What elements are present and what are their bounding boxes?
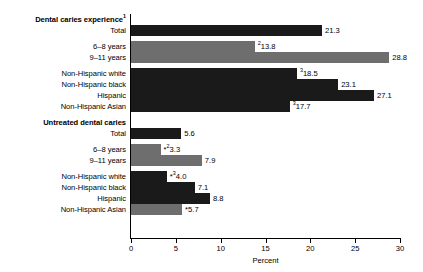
chart-bar-row: Non-Hispanic black7.1 <box>0 182 423 193</box>
bar <box>131 101 290 112</box>
x-axis-tick-label: 30 <box>388 244 412 253</box>
bar <box>131 193 210 204</box>
x-axis-tick <box>400 239 401 243</box>
x-axis-tick-label: 25 <box>343 244 367 253</box>
x-axis-tick-label: 20 <box>298 244 322 253</box>
chart-bar-row: Non-Hispanic white318.5 <box>0 68 423 79</box>
bar-value-label: 318.5 <box>300 68 318 79</box>
footnote-marker: 3 <box>300 67 303 73</box>
x-axis-tick-label: 15 <box>254 244 278 253</box>
bar-value-label: *34.0 <box>170 171 187 182</box>
category-label: Hispanic <box>0 90 126 101</box>
x-axis-tick <box>221 239 222 243</box>
category-label: 6–8 years <box>0 41 126 52</box>
x-axis-tick <box>131 239 132 243</box>
bar-value-label: 21.3 <box>325 25 340 36</box>
category-label: 9–11 years <box>0 155 126 166</box>
section-header-label: Untreated dental caries <box>0 117 126 128</box>
chart-bar-row: Non-Hispanic Asian*5.7 <box>0 204 423 215</box>
category-label: Total <box>0 25 126 36</box>
chart-bar-row: 6–8 years213.8 <box>0 41 423 52</box>
bar <box>131 41 255 52</box>
chart-bar-row: Total5.6 <box>0 128 423 139</box>
bar-value-label: 7.9 <box>205 155 216 166</box>
bar <box>131 128 181 139</box>
bar-value-label: *23.3 <box>164 144 181 155</box>
bar-value-label: 5.6 <box>184 128 195 139</box>
category-label: Non-Hispanic Asian <box>0 204 126 215</box>
chart-bar-row: 6–8 years*23.3 <box>0 144 423 155</box>
x-axis-tick-label: 10 <box>209 244 233 253</box>
category-label: 6–8 years <box>0 144 126 155</box>
x-axis-tick <box>176 239 177 243</box>
x-axis-title: Percent <box>131 256 400 265</box>
category-label: Non-Hispanic black <box>0 79 126 90</box>
bar <box>131 204 182 215</box>
footnote-marker: 2 <box>167 143 170 149</box>
category-label: Hispanic <box>0 193 126 204</box>
x-axis-tick <box>310 239 311 243</box>
category-label: 9–11 years <box>0 52 126 63</box>
chart-bar-row: Non-Hispanic Asian317.7 <box>0 101 423 112</box>
chart-bar-row: 9–11 years28.8 <box>0 52 423 63</box>
category-label: Non-Hispanic white <box>0 171 126 182</box>
bar <box>131 182 195 193</box>
bar-chart-figure: Dental caries experience1Total21.36–8 ye… <box>0 0 423 272</box>
bar <box>131 25 322 36</box>
x-axis-tick-label: 0 <box>119 244 143 253</box>
bar-value-label: 23.1 <box>341 79 356 90</box>
x-axis-tick-label: 5 <box>164 244 188 253</box>
bar-value-label: 213.8 <box>258 41 276 52</box>
bar-value-label: 317.7 <box>293 101 311 112</box>
footnote-marker: 1 <box>123 13 126 19</box>
bar-value-label: 7.1 <box>198 182 209 193</box>
x-axis-tick <box>355 239 356 243</box>
bar <box>131 171 167 182</box>
chart-bar-row: Hispanic27.1 <box>0 90 423 101</box>
chart-section-header-row: Dental caries experience1 <box>0 14 423 25</box>
category-label: Non-Hispanic black <box>0 182 126 193</box>
bar-value-label: *5.7 <box>185 204 199 215</box>
category-label: Non-Hispanic Asian <box>0 101 126 112</box>
chart-bar-row: 9–11 years7.9 <box>0 155 423 166</box>
x-axis-tick <box>266 239 267 243</box>
bar <box>131 90 374 101</box>
category-label: Non-Hispanic white <box>0 68 126 79</box>
bar <box>131 155 202 166</box>
bar <box>131 144 161 155</box>
bar-value-label: 27.1 <box>377 90 392 101</box>
chart-bar-row: Non-Hispanic white*34.0 <box>0 171 423 182</box>
category-label: Total <box>0 128 126 139</box>
bar-value-label: 28.8 <box>392 52 407 63</box>
bar <box>131 68 297 79</box>
bar <box>131 52 389 63</box>
chart-bar-row: Total21.3 <box>0 25 423 36</box>
chart-bar-row: Hispanic8.8 <box>0 193 423 204</box>
footnote-marker: 3 <box>173 170 176 176</box>
bar-value-label: 8.8 <box>213 193 224 204</box>
section-header-label: Dental caries experience1 <box>0 14 126 25</box>
chart-section-header-row: Untreated dental caries <box>0 117 423 128</box>
chart-bar-row: Non-Hispanic black23.1 <box>0 79 423 90</box>
bar <box>131 79 338 90</box>
footnote-marker: 3 <box>293 100 296 106</box>
footnote-marker: 2 <box>258 40 261 46</box>
